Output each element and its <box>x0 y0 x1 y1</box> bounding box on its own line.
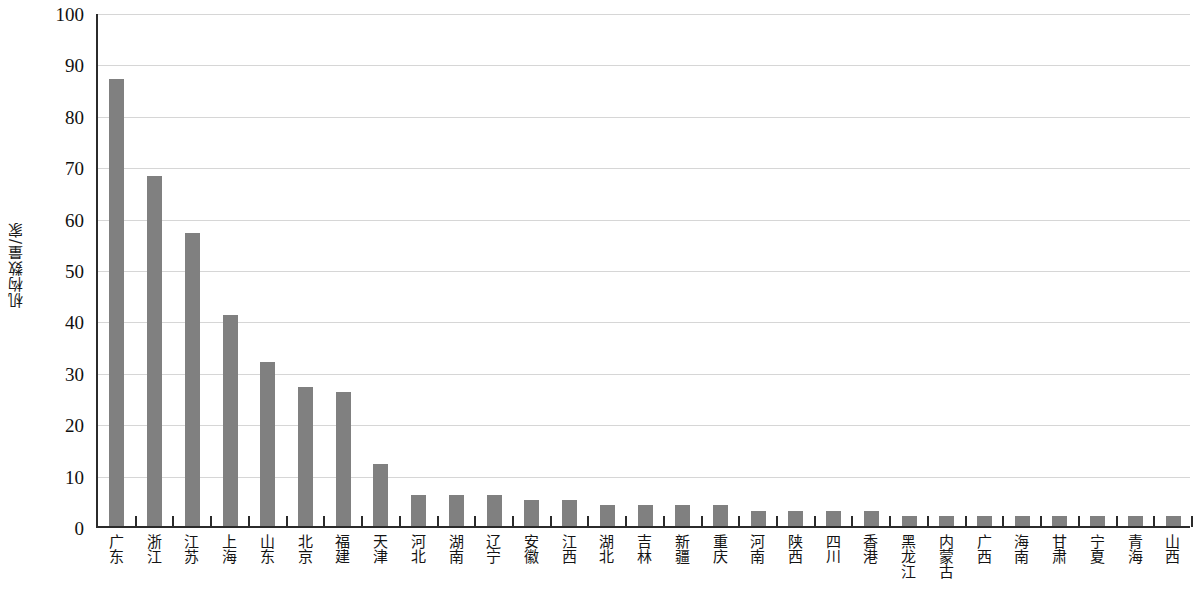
x-axis-tick-label-text: 香港 <box>862 534 877 564</box>
x-axis-tick-mark <box>1116 516 1118 527</box>
bar <box>826 511 841 526</box>
x-axis-tick-label: 湖南 <box>444 534 464 568</box>
x-axis-tick-label-text: 陕西 <box>786 534 801 564</box>
bar <box>1090 516 1105 526</box>
x-axis-tick-label-text: 安徽 <box>522 534 537 564</box>
x-axis-tick-label-text: 湖南 <box>447 534 462 564</box>
x-axis-tick-mark <box>248 516 250 527</box>
bar <box>638 505 653 526</box>
x-axis-tick-labels: 广东浙江江苏上海山东北京福建天津河北湖南辽宁安徽江西湖北吉林新疆重庆河南陕西四川… <box>96 534 1190 604</box>
x-axis-tick-label-text: 辽宁 <box>484 534 499 564</box>
bar <box>977 516 992 526</box>
x-axis-tick-label: 天津 <box>369 534 389 568</box>
x-axis-tick-label: 甘肃 <box>1048 534 1068 568</box>
x-axis-tick-mark <box>701 516 703 527</box>
x-axis-tick-label-text: 宁夏 <box>1088 534 1103 564</box>
bars-layer <box>98 14 1190 526</box>
x-axis-tick-label: 广东 <box>105 534 125 568</box>
bar <box>939 516 954 526</box>
x-axis-tick-mark <box>663 516 665 527</box>
bar <box>1166 516 1181 526</box>
x-axis-tick-mark <box>512 516 514 527</box>
bar <box>1052 516 1067 526</box>
x-axis-tick-mark <box>625 516 627 527</box>
x-axis-tick-mark <box>814 516 816 527</box>
bar <box>298 387 313 526</box>
x-axis-tick-label: 广西 <box>973 534 993 568</box>
x-axis-tick-mark <box>965 516 967 527</box>
x-axis-tick-mark <box>1191 516 1193 527</box>
bar <box>864 511 879 526</box>
x-axis-tick-label-text: 四川 <box>824 534 839 564</box>
x-axis-tick-label: 新疆 <box>671 534 691 568</box>
x-axis-tick-mark <box>587 516 589 527</box>
x-axis-tick-label: 吉林 <box>633 534 653 568</box>
y-axis-tick-label: 90 <box>65 56 84 75</box>
bar <box>902 516 917 526</box>
x-axis-tick-label-text: 吉林 <box>635 534 650 564</box>
x-axis-tick-label: 江苏 <box>180 534 200 568</box>
bar <box>223 315 238 526</box>
x-axis-tick-label: 宁夏 <box>1086 534 1106 568</box>
bar <box>751 511 766 526</box>
x-axis-tick-label-text: 上海 <box>220 534 235 564</box>
x-axis-tick-label-text: 广东 <box>107 534 122 564</box>
x-axis-tick-label: 青海 <box>1123 534 1143 568</box>
x-axis-tick-mark <box>135 516 137 527</box>
x-axis-tick-label: 陕西 <box>784 534 804 568</box>
bar <box>1015 516 1030 526</box>
bar-chart: 机构数量/家 0102030405060708090100 广东浙江江苏上海山东… <box>0 0 1194 604</box>
x-axis-tick-label: 河北 <box>407 534 427 568</box>
y-axis-tick-label: 60 <box>65 210 84 229</box>
x-axis-tick-label: 辽宁 <box>482 534 502 568</box>
bar <box>1128 516 1143 526</box>
x-axis-tick-label-text: 海南 <box>1013 534 1028 564</box>
x-axis-tick-mark <box>927 516 929 527</box>
y-axis-tick-label: 10 <box>65 467 84 486</box>
y-axis-title: 机构数量/家 <box>0 0 30 530</box>
x-axis-tick-mark <box>172 516 174 527</box>
x-axis-tick-label-text: 黑龙江 <box>899 534 914 579</box>
x-axis-tick-label-text: 河南 <box>749 534 764 564</box>
x-axis-tick-mark <box>361 516 363 527</box>
bar <box>562 500 577 526</box>
x-axis-tick-label: 山西 <box>1161 534 1181 568</box>
bar <box>449 495 464 526</box>
y-axis-tick-label: 30 <box>65 364 84 383</box>
x-axis-tick-mark <box>738 516 740 527</box>
x-axis-tick-label: 福建 <box>331 534 351 568</box>
x-axis-tick-label: 安徽 <box>520 534 540 568</box>
x-axis-tick-mark <box>851 516 853 527</box>
x-axis-tick-label-text: 湖北 <box>598 534 613 564</box>
x-axis-tick-label: 浙江 <box>143 534 163 568</box>
x-axis-tick-mark <box>889 516 891 527</box>
x-axis-tick-mark <box>1153 516 1155 527</box>
x-axis-tick-mark <box>323 516 325 527</box>
bar <box>185 233 200 526</box>
bar <box>675 505 690 526</box>
x-axis-tick-label-text: 江苏 <box>183 534 198 564</box>
x-axis-tick-label-text: 浙江 <box>145 534 160 564</box>
x-axis-tick-mark <box>550 516 552 527</box>
x-axis-tick-label: 湖北 <box>595 534 615 568</box>
bar <box>524 500 539 526</box>
x-axis-tick-label-text: 江西 <box>560 534 575 564</box>
bar <box>487 495 502 526</box>
x-axis-tick-label-text: 青海 <box>1126 534 1141 564</box>
y-axis-tick-label: 20 <box>65 416 84 435</box>
y-axis-tick-label: 50 <box>65 262 84 281</box>
plot-area <box>96 14 1190 528</box>
x-axis-tick-label-text: 河北 <box>409 534 424 564</box>
x-axis-tick-label-text: 新疆 <box>673 534 688 564</box>
x-axis-tick-label-text: 福建 <box>334 534 349 564</box>
x-axis-tick-label-text: 重庆 <box>711 534 726 564</box>
y-axis-tick-label: 80 <box>65 107 84 126</box>
x-axis-tick-label-text: 甘肃 <box>1050 534 1065 564</box>
bar <box>260 362 275 526</box>
x-axis-tick-mark <box>474 516 476 527</box>
x-axis-tick-mark <box>1078 516 1080 527</box>
x-axis-tick-mark <box>437 516 439 527</box>
x-axis-tick-label: 内蒙古 <box>935 534 955 583</box>
x-axis-tick-mark <box>1040 516 1042 527</box>
x-axis-tick-mark <box>286 516 288 527</box>
